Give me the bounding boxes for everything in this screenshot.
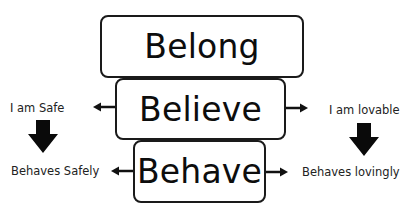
belong-box: Belong [100,15,304,78]
behave-box: Behave [133,140,266,203]
right-belief-label: I am lovable [329,103,400,117]
arrow-right-icon [266,167,288,177]
belong-label: Belong [144,27,259,66]
arrow-left-icon [111,166,133,176]
right-behaviour-label: Behaves lovingly [302,165,400,179]
believe-box: Believe [115,78,286,140]
arrow-down-icon [28,120,58,153]
arrow-right-icon [286,103,308,113]
believe-label: Believe [139,90,262,129]
left-behaviour-label: Behaves Safely [11,164,99,178]
arrow-left-icon [93,102,115,112]
left-belief-label: I am Safe [10,101,64,115]
behave-label: Behave [137,152,262,191]
arrow-down-icon [349,123,379,156]
